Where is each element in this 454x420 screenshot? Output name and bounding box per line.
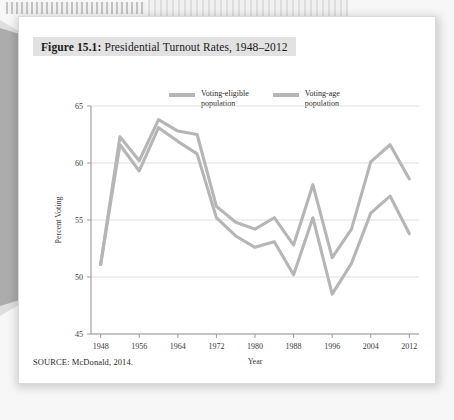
y-axis-tick-label: 55 — [75, 216, 83, 225]
x-axis-tick-label: 2004 — [363, 342, 379, 351]
chart-legend: Voting-eligible population Voting-age po… — [169, 89, 340, 108]
source-note: SOURCE: McDonald, 2014. — [33, 357, 133, 367]
line-swatch-icon — [169, 93, 195, 97]
series-line-voting-eligible — [101, 120, 410, 265]
x-axis-tick-label: 1996 — [324, 342, 340, 351]
line-swatch-icon — [273, 93, 299, 97]
x-axis-tick-label: 1956 — [131, 342, 147, 351]
figure-card: Figure 15.1: Presidential Turnout Rates,… — [18, 16, 436, 384]
y-axis-tick-label: 50 — [75, 273, 83, 282]
series-line-voting-age — [101, 128, 410, 294]
y-axis-tick-label: 65 — [75, 102, 83, 111]
line-chart-svg: 4550556065194819561964197219801988199620… — [19, 17, 437, 385]
legend-item-voting-eligible: Voting-eligible population — [169, 89, 249, 108]
legend-label: Voting-age population — [305, 89, 340, 108]
figure-title-text: Presidential Turnout Rates, 1948–2012 — [104, 41, 287, 53]
legend-item-voting-age: Voting-age population — [273, 89, 340, 108]
y-axis-tick-label: 60 — [75, 159, 83, 168]
x-axis-tick-label: 1980 — [247, 342, 263, 351]
figure-number: Figure 15.1: — [41, 41, 101, 53]
x-axis-tick-label: 1948 — [93, 342, 109, 351]
x-axis-tick-label: 1972 — [208, 342, 224, 351]
x-axis-title: Year — [248, 357, 263, 366]
chart-plot-area: 4550556065194819561964197219801988199620… — [19, 17, 437, 385]
legend-label: Voting-eligible population — [201, 89, 249, 108]
figure-title: Figure 15.1: Presidential Turnout Rates,… — [33, 37, 296, 56]
x-axis-tick-label: 1964 — [170, 342, 186, 351]
page-perforation-strip — [6, 2, 146, 14]
x-axis-tick-label: 1988 — [286, 342, 302, 351]
y-axis-title: Percent Voting — [54, 196, 63, 243]
x-axis-tick-label: 2012 — [401, 342, 417, 351]
y-axis-tick-label: 45 — [75, 330, 83, 339]
